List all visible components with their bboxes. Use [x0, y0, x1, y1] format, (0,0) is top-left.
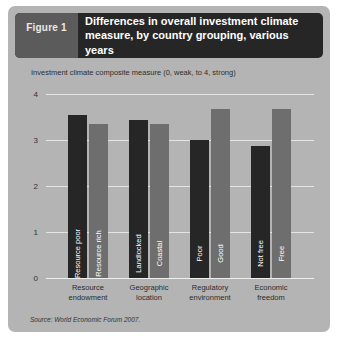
bar-label: Landlocked [134, 234, 143, 272]
bar-label: Resource poor [73, 229, 82, 278]
bar-label: Poor [195, 246, 204, 262]
y-axis-tick-label: 2 [34, 182, 38, 191]
figure-panel: Figure 1 Differences in overall investme… [8, 6, 330, 332]
figure-number-tag: Figure 1 [15, 13, 78, 58]
axis-caption: Investment climate composite measure (0,… [31, 68, 236, 77]
bar-label: Not free [256, 240, 265, 267]
y-axis-tick-label: 1 [34, 228, 38, 237]
y-axis-tick-label: 0 [34, 274, 38, 283]
bar[interactable]: Landlocked [129, 120, 148, 278]
category-label-line: Economic [225, 283, 317, 293]
category-label-line: freedom [225, 293, 317, 303]
bar-group: LandlockedCoastal [129, 94, 169, 278]
y-axis-ticks: 43210 [8, 94, 42, 278]
bar[interactable]: Good [211, 109, 230, 278]
figure-title: Differences in overall investment climat… [85, 13, 318, 58]
y-axis-tick-label: 3 [34, 136, 38, 145]
bar-label: Free [277, 246, 286, 261]
bar[interactable]: Resource poor [68, 115, 87, 278]
bar[interactable]: Not free [251, 146, 270, 278]
bar-label: Resource rich [94, 230, 103, 276]
bar[interactable]: Poor [190, 140, 209, 278]
figure-title-line-2: measure, by country grouping, various ye… [85, 28, 318, 57]
axis-baseline [46, 278, 314, 279]
source-note: Source: World Economic Forum 2007. [30, 316, 140, 323]
bar-label: Coastal [155, 241, 164, 266]
bar-group: PoorGood [190, 94, 230, 278]
plot-area: Resource poorResource richLandlockedCoas… [46, 94, 314, 278]
bar[interactable]: Resource rich [89, 124, 108, 278]
bar-group: Not freeFree [251, 94, 291, 278]
figure-header: Figure 1 Differences in overall investme… [15, 13, 323, 58]
y-axis-tick-label: 4 [34, 90, 38, 99]
bar[interactable]: Free [272, 109, 291, 278]
bar[interactable]: Coastal [150, 124, 169, 278]
category-label: Economicfreedom [225, 283, 317, 302]
bar-group: Resource poorResource rich [68, 94, 108, 278]
figure-title-line-1: Differences in overall investment climat… [85, 14, 318, 29]
bar-label: Good [216, 244, 225, 262]
